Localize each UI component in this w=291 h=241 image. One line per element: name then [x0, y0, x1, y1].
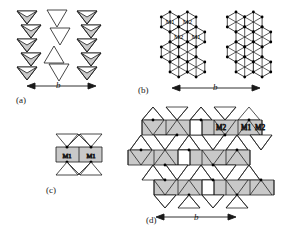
panel-b-diagram: M1 M2 M2 M1: [158, 10, 284, 92]
panel-b: M1 M2 M2 M1: [158, 10, 284, 92]
panel-c-m1-right-label: M1: [86, 152, 95, 159]
panel-b-site-m1-top: M1: [165, 18, 174, 25]
panel-d-row-triangles-2: [130, 135, 272, 150]
panel-b-cluster-left: M1 M2 M2 M1: [160, 11, 206, 79]
panel-a-caption: (a): [16, 95, 26, 105]
figure-root: b (a): [0, 0, 291, 241]
panel-c-m1-left-label: M1: [62, 152, 71, 159]
panel-c-diagram: M1 M1: [50, 128, 114, 188]
panel-a-diagram: [14, 6, 114, 90]
panel-a-left-chain: [17, 11, 41, 80]
panel-d-caption: (d): [146, 215, 157, 225]
panel-a: [14, 6, 114, 90]
panel-a-middle-chain: [44, 10, 70, 81]
panel-d-row-top-triangles: [142, 107, 260, 120]
panel-d-band-3: [154, 179, 274, 197]
panel-b-site-m2-low: M2: [174, 33, 183, 40]
panel-d-band-1: M2 M1 M2: [142, 119, 265, 137]
panel-c: M1 M1: [50, 128, 114, 188]
panel-d-row-triangles-3: [142, 165, 260, 180]
panel-b-site-m1-low: M1: [192, 33, 201, 40]
panel-d-diagram: M2 M1 M2: [128, 104, 288, 222]
panel-a-axis-label: b: [56, 80, 61, 90]
panel-a-right-chain: [77, 11, 101, 80]
panel-d-m1-mid-label: M1: [241, 124, 251, 132]
panel-c-caption: (c): [46, 185, 56, 195]
panel-d-m2-right-label: M2: [255, 124, 265, 132]
panel-b-m2-top-label: M2: [183, 18, 192, 25]
panel-b-cluster-right: [226, 11, 272, 79]
panel-b-m1-top-label: M1: [165, 18, 174, 25]
panel-b-site-m2-top: M2: [183, 18, 192, 25]
panel-d: M2 M1 M2: [128, 104, 288, 222]
panel-d-axis-label: b: [194, 212, 199, 222]
panel-d-m2-left-label: M2: [216, 124, 226, 132]
panel-a-b-arrow: [27, 83, 96, 89]
panel-b-m2-low-label: M2: [174, 33, 183, 40]
panel-b-caption: (b): [138, 85, 149, 95]
panel-b-axis-label: b: [213, 82, 218, 92]
panel-b-m1-low-label: M1: [192, 33, 201, 40]
panel-d-row-bottom-triangles: [154, 195, 248, 208]
panel-d-band-2: [128, 149, 250, 167]
